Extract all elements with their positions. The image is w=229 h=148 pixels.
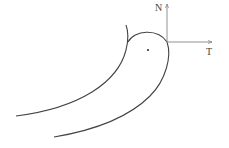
right-curve: [54, 42, 169, 137]
normal-axis-label: N: [155, 2, 162, 13]
left-curve: [16, 25, 128, 116]
diagram-canvas: N T: [0, 0, 229, 148]
center-dot: [147, 49, 149, 51]
tangent-axis-label: T: [206, 46, 212, 57]
cap-arc: [128, 32, 167, 42]
